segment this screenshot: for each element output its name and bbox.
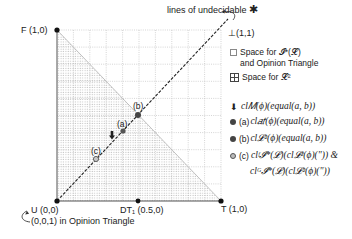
legend-item-c-line2: clᴳ𝓘*(𝓛)(cl𝓛²(ϕ)(")) <box>250 166 330 177</box>
legend-b-text: cl𝓛²(ϕ)(equal(a, b)) <box>250 133 326 144</box>
undecidable-line-label: lines of undecidable ✱ <box>167 4 258 15</box>
point-a-label: (a) <box>117 119 127 129</box>
corner-u-label: U (0,0) <box>31 205 59 215</box>
point-b-label: (b) <box>133 101 143 111</box>
legend-item-a: (a) cl𝑎𝑡(ϕ)(equal(a, b)) <box>230 116 325 127</box>
legend-space-l2-text: Space for 𝓛² <box>242 72 291 83</box>
legend-cl-m-text: cl𝑀(ϕ)(equal(a, b)) <box>241 101 315 112</box>
grid-swatch-icon <box>230 73 239 82</box>
point-a-marker <box>120 128 125 133</box>
corner-u-marker <box>54 198 59 203</box>
corner-f-label: F (1,0) <box>21 25 48 35</box>
corner-f-marker <box>54 27 59 32</box>
corner-t-marker <box>218 198 223 203</box>
down-arrow-icon: ⬇ <box>230 102 238 112</box>
corner-t-label: T (1,0) <box>221 204 247 214</box>
legend-item-space-i: Space for 𝓘*(𝓛) <box>230 47 301 58</box>
legend-item-space-i-line2: and Opinion Triangle <box>240 58 318 68</box>
legend-item-c: (c) clᶠ𝓘*(𝓛)(cl𝓛²(ϕ)(")) & <box>230 150 338 161</box>
undecidable-label-text: lines of undecidable <box>167 5 247 15</box>
legend-c-prefix: (c) <box>239 151 249 161</box>
legend-item-cl-m: ⬇ cl𝑀(ϕ)(equal(a, b)) <box>230 101 315 112</box>
legend-c-text-2: clᴳ𝓘*(𝓛)(cl𝓛²(ϕ)(")) <box>250 166 330 177</box>
legend-space-i-text: Space for 𝓘*(𝓛) <box>240 47 301 58</box>
legend-item-space-l2: Space for 𝓛² <box>230 72 291 83</box>
top-corner-label: ⊥(1,1) <box>228 28 255 38</box>
legend-b-prefix: (b) <box>239 134 249 144</box>
legend-a-prefix: (a) <box>239 117 249 127</box>
hollow-dot-icon <box>230 153 236 159</box>
star-icon: ✱ <box>249 3 258 15</box>
legend-item-b: (b) cl𝓛²(ϕ)(equal(a, b)) <box>230 133 326 144</box>
opinion-triangle-note: (0,0,1) in Opinion Triangle <box>31 216 135 226</box>
dt1-label: DT₁ (0.5,0) <box>120 205 164 215</box>
dotted-swatch-icon <box>230 49 237 56</box>
legend-a-text: cl𝑎𝑡(ϕ)(equal(a, b)) <box>250 116 324 127</box>
u-curved-arrow <box>22 211 30 222</box>
legend-c-text-1: clᶠ𝓘*(𝓛)(cl𝓛²(ϕ)(")) & <box>251 150 338 161</box>
filled-dot-icon <box>230 119 236 125</box>
legend-space-i-text-2: and Opinion Triangle <box>240 58 318 68</box>
dt1-marker <box>136 199 141 204</box>
point-c-label: (c) <box>91 146 101 156</box>
filled-dot-icon <box>230 136 236 142</box>
point-b-marker <box>135 112 141 118</box>
point-c-marker <box>93 156 98 161</box>
